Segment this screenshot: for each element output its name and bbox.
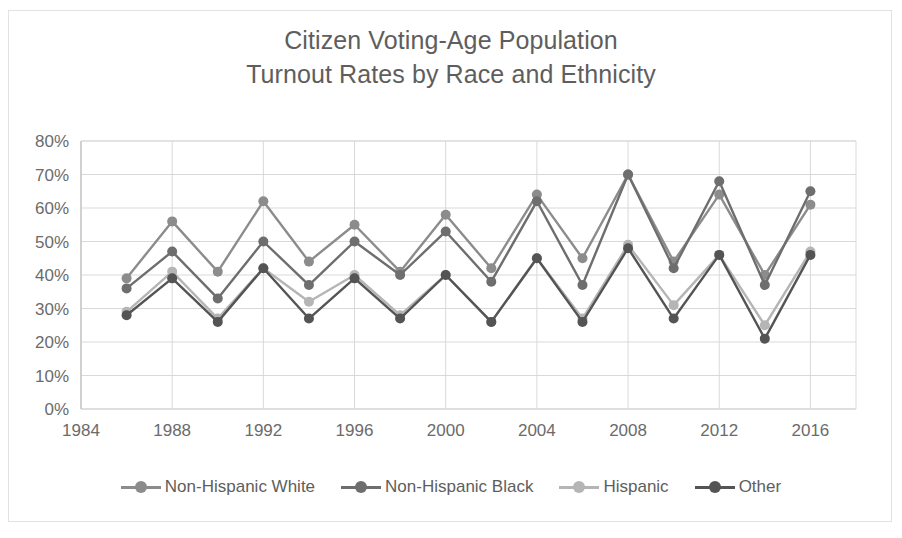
legend-item[interactable]: Other	[695, 477, 782, 497]
data-point-marker	[577, 317, 587, 327]
data-point-marker	[395, 270, 405, 280]
line-chart-svg: 0%10%20%30%40%50%60%70%80% 1984198819921…	[9, 11, 893, 523]
chart-legend: Non-Hispanic WhiteNon-Hispanic BlackHisp…	[9, 477, 893, 497]
data-point-marker	[213, 267, 223, 277]
legend-item[interactable]: Non-Hispanic Black	[341, 477, 533, 497]
data-point-marker	[350, 237, 360, 247]
data-series-group	[122, 170, 816, 344]
data-point-marker	[760, 334, 770, 344]
data-point-marker	[213, 293, 223, 303]
data-point-marker	[122, 273, 132, 283]
data-point-marker	[577, 253, 587, 263]
data-point-marker	[486, 317, 496, 327]
data-point-marker	[167, 247, 177, 257]
x-axis-tick-label: 2004	[518, 421, 556, 440]
data-point-marker	[760, 280, 770, 290]
data-point-marker	[304, 257, 314, 267]
data-point-marker	[441, 210, 451, 220]
data-point-marker	[122, 310, 132, 320]
legend-marker-icon	[695, 480, 735, 494]
data-point-marker	[486, 277, 496, 287]
data-point-marker	[532, 253, 542, 263]
legend-marker-icon	[121, 480, 161, 494]
x-axis-tick-label: 2012	[700, 421, 738, 440]
plot-area: 0%10%20%30%40%50%60%70%80% 1984198819921…	[9, 11, 893, 523]
data-point-marker	[258, 237, 268, 247]
data-point-marker	[167, 273, 177, 283]
data-point-marker	[441, 226, 451, 236]
x-axis-labels-group: 198419881992199620002004200820122016	[62, 421, 829, 440]
legend-label: Non-Hispanic Black	[385, 477, 533, 497]
y-axis-labels-group: 0%10%20%30%40%50%60%70%80%	[35, 132, 69, 419]
data-point-marker	[258, 263, 268, 273]
x-axis-tick-label: 1984	[62, 421, 100, 440]
data-point-marker	[304, 297, 314, 307]
data-point-marker	[805, 186, 815, 196]
series-line	[127, 248, 811, 338]
data-point-marker	[669, 314, 679, 324]
legend-dot	[355, 481, 367, 493]
data-point-marker	[395, 314, 405, 324]
y-axis-tick-label: 40%	[35, 266, 69, 285]
data-point-marker	[304, 314, 314, 324]
data-point-marker	[350, 273, 360, 283]
x-axis-tick-label: 2000	[427, 421, 465, 440]
data-point-marker	[669, 263, 679, 273]
data-point-marker	[714, 176, 724, 186]
data-point-marker	[623, 170, 633, 180]
y-axis-tick-label: 70%	[35, 166, 69, 185]
data-point-marker	[122, 283, 132, 293]
data-point-marker	[486, 263, 496, 273]
y-axis-tick-label: 30%	[35, 300, 69, 319]
legend-marker-icon	[341, 480, 381, 494]
legend-dot	[709, 481, 721, 493]
gridlines-group	[81, 141, 856, 409]
data-point-marker	[623, 243, 633, 253]
y-axis-tick-label: 80%	[35, 132, 69, 151]
legend-dot	[573, 481, 585, 493]
data-point-marker	[213, 317, 223, 327]
data-point-marker	[304, 280, 314, 290]
data-point-marker	[577, 280, 587, 290]
data-point-marker	[167, 216, 177, 226]
x-axis-tick-label: 2008	[609, 421, 647, 440]
series-line	[127, 175, 811, 279]
x-axis-tick-label: 1988	[153, 421, 191, 440]
legend-item[interactable]: Non-Hispanic White	[121, 477, 315, 497]
y-axis-tick-label: 0%	[44, 400, 69, 419]
legend-dot	[135, 481, 147, 493]
y-axis-tick-label: 50%	[35, 233, 69, 252]
data-point-marker	[805, 250, 815, 260]
data-point-marker	[532, 196, 542, 206]
y-axis-tick-label: 10%	[35, 367, 69, 386]
data-point-marker	[669, 300, 679, 310]
data-point-marker	[760, 320, 770, 330]
data-point-marker	[441, 270, 451, 280]
x-axis-tick-label: 2016	[791, 421, 829, 440]
y-axis-tick-label: 20%	[35, 333, 69, 352]
legend-marker-icon	[559, 480, 599, 494]
data-point-marker	[714, 250, 724, 260]
legend-item[interactable]: Hispanic	[559, 477, 668, 497]
legend-label: Other	[739, 477, 782, 497]
series-line	[127, 175, 811, 299]
x-axis-tick-label: 1996	[336, 421, 374, 440]
y-axis-tick-label: 60%	[35, 199, 69, 218]
x-axis-tick-label: 1992	[244, 421, 282, 440]
legend-label: Hispanic	[603, 477, 668, 497]
legend-label: Non-Hispanic White	[165, 477, 315, 497]
data-point-marker	[350, 220, 360, 230]
chart-card: Citizen Voting-Age Population Turnout Ra…	[8, 10, 892, 522]
data-point-marker	[258, 196, 268, 206]
